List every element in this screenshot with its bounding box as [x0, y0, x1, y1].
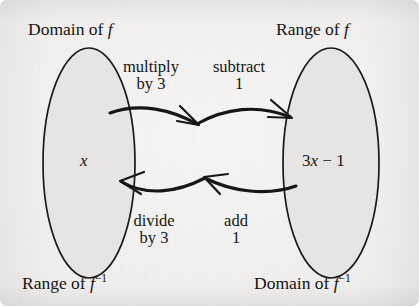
label-range-of-f-text: Range of: [276, 19, 340, 39]
label-range-of-f-inverse-text: Range of: [22, 273, 86, 293]
op-label-divide: divide by 3: [118, 212, 190, 247]
label-domain-of-f: Domain of f: [28, 20, 113, 38]
label-domain-of-f-symbol: f: [108, 19, 113, 39]
label-domain-of-f-inverse-exponent: −1: [339, 272, 351, 284]
op-label-subtract-line1: subtract: [200, 58, 278, 75]
inverse-arrow: [120, 172, 296, 194]
op-label-subtract: subtract 1: [200, 58, 278, 93]
forward-arrow: [110, 100, 292, 125]
right-set-coefficient: 3: [302, 151, 311, 170]
function-inverse-diagram: Domain of f Range of f Range of f−1 Doma…: [0, 0, 419, 306]
op-label-add: add 1: [205, 212, 267, 247]
op-label-subtract-line2: 1: [200, 75, 278, 92]
op-label-add-line2: 1: [205, 229, 267, 246]
op-label-divide-line1: divide: [118, 212, 190, 229]
op-label-multiply-line2: by 3: [112, 75, 190, 92]
right-set-element: 3x − 1: [302, 152, 345, 170]
left-set-element: x: [80, 152, 88, 170]
right-set-constant: 1: [336, 151, 345, 170]
label-domain-of-f-text: Domain of: [28, 19, 103, 39]
label-domain-of-f-inverse-text: Domain of: [254, 273, 329, 293]
op-label-add-line1: add: [205, 212, 267, 229]
label-range-of-f-symbol: f: [344, 19, 349, 39]
label-range-of-f-inverse-exponent: −1: [95, 272, 107, 284]
label-range-of-f: Range of f: [276, 20, 349, 38]
op-label-multiply: multiply by 3: [112, 58, 190, 93]
right-set-variable: x: [311, 151, 319, 170]
op-label-multiply-line1: multiply: [112, 58, 190, 75]
label-range-of-f-inverse: Range of f−1: [22, 272, 107, 292]
op-label-divide-line2: by 3: [118, 229, 190, 246]
diagram-canvas: [0, 0, 419, 306]
label-domain-of-f-inverse: Domain of f−1: [254, 272, 351, 292]
right-set-operator: −: [322, 151, 332, 170]
